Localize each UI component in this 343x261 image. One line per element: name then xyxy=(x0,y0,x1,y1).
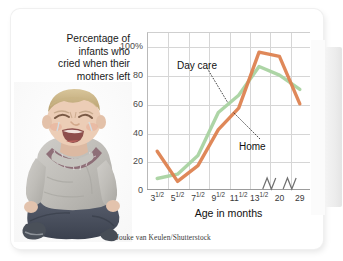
gridline-vertical xyxy=(270,33,271,190)
x-tick-label: 91/2 xyxy=(212,193,226,203)
x-tick-label: 111/2 xyxy=(230,193,248,203)
series-label-day-care: Day care xyxy=(177,60,217,71)
x-axis-title: Age in months xyxy=(147,207,310,219)
gridline-vertical xyxy=(291,33,292,190)
gridline-vertical xyxy=(168,33,169,190)
x-tick-label: 71/2 xyxy=(191,193,205,203)
gridline-vertical xyxy=(209,33,210,190)
y-tick-label: 60 xyxy=(133,99,143,109)
line-chart: 020406080100% 31/251/271/291/2111/2131/2… xyxy=(0,0,343,261)
x-axis-tick-labels: 31/251/271/291/2111/2131/22029 xyxy=(147,193,317,207)
y-tick-label: 40 xyxy=(133,128,143,138)
x-tick-label: 51/2 xyxy=(171,193,185,203)
x-axis-line xyxy=(147,189,310,190)
y-axis-tick-labels: 020406080100% xyxy=(109,32,143,190)
x-tick-label: 20 xyxy=(275,193,285,203)
series-label-home: Home xyxy=(239,141,266,152)
gridline-vertical xyxy=(230,33,231,190)
y-tick-label: 100% xyxy=(120,41,143,51)
gridline-vertical xyxy=(189,33,190,190)
y-tick-label: 0 xyxy=(138,185,143,195)
figure-root: Percentage of infants who cried when the… xyxy=(0,0,343,261)
y-tick-label: 80 xyxy=(133,70,143,80)
x-tick-label: 131/2 xyxy=(250,193,268,203)
x-tick-label: 31/2 xyxy=(150,193,164,203)
plot-area xyxy=(147,32,310,190)
x-tick-label: 29 xyxy=(295,193,305,203)
gridline-vertical xyxy=(250,33,251,190)
y-tick-label: 20 xyxy=(133,156,143,166)
